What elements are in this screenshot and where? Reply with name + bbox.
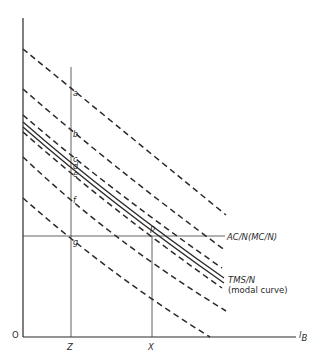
point-p-label: P — [150, 226, 155, 235]
origin-label: O — [12, 330, 19, 340]
x-axis-marker-label: X — [147, 342, 154, 352]
curve-highest — [23, 49, 226, 215]
point-b-label: b — [73, 130, 78, 139]
curve-near-modal-lower — [23, 132, 222, 288]
point-g-label: g — [73, 238, 78, 247]
point-a-label: a — [73, 89, 78, 98]
modal-curve-upper — [23, 122, 224, 278]
curve-near-modal-upper — [23, 115, 222, 268]
modal-curve-sublabel: (modal curve) — [228, 285, 288, 295]
modal-curve-label: TMS/N — [228, 275, 256, 285]
curve-upper — [23, 89, 226, 251]
diagram-canvas: a b c d e f g P AC/N(MC/N) TMS/N (modal … — [0, 0, 321, 364]
z-axis-label: Z — [66, 342, 73, 352]
curve-lowest — [23, 198, 210, 337]
point-e-label: e — [73, 170, 78, 179]
curve-lower — [23, 157, 226, 311]
x-axis-label: lB — [299, 330, 307, 343]
ac-n-label: AC/N(MC/N) — [226, 232, 277, 242]
